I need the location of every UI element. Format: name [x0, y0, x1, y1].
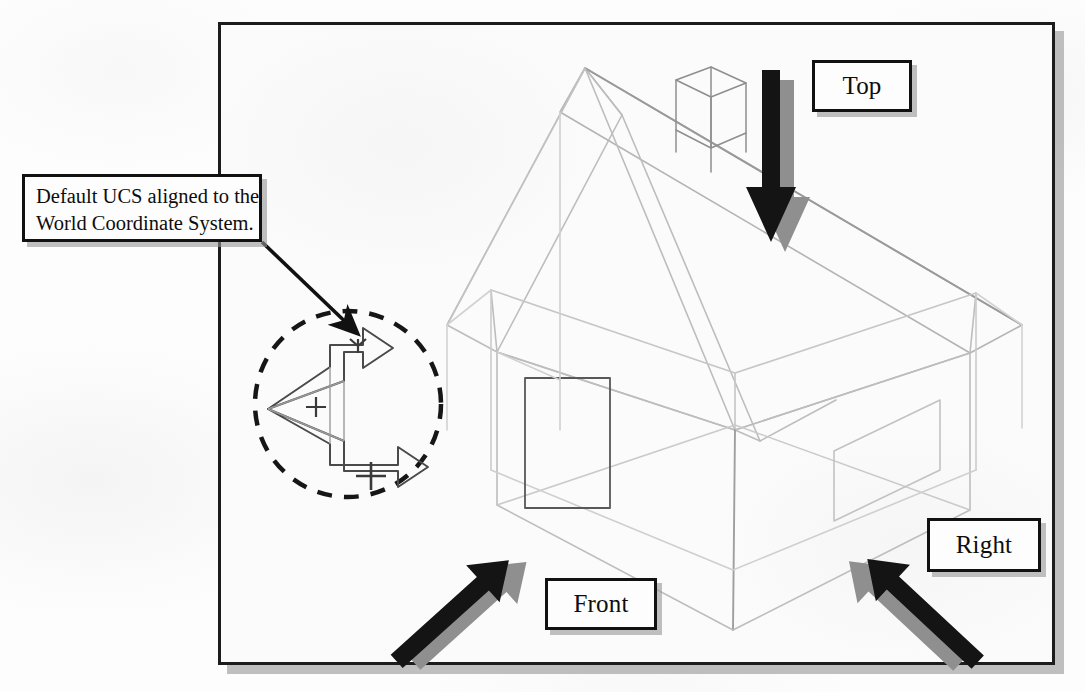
view-label-front: Front — [545, 578, 657, 630]
callout-line-1: Default UCS aligned to the — [36, 183, 249, 210]
default-ucs-callout: Default UCS aligned to the World Coordin… — [22, 174, 262, 242]
callout-line-2: World Coordinate System. — [36, 210, 249, 237]
view-label-right: Right — [927, 518, 1041, 572]
view-label-top: Top — [812, 60, 912, 112]
